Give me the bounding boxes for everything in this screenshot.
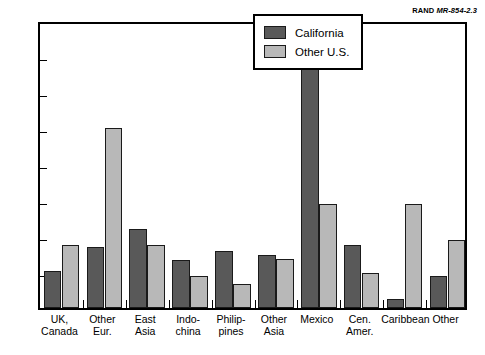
x-axis-tick — [297, 300, 298, 308]
x-axis-tick-label: Cen.Amer. — [338, 314, 381, 337]
bar-california — [172, 260, 190, 308]
x-axis-tick-label-line: Cen. — [338, 314, 381, 326]
bar-california — [129, 229, 147, 308]
x-axis-tick-label-line: Eur. — [81, 326, 124, 338]
bar-group — [40, 24, 83, 308]
bar-group — [126, 24, 169, 308]
legend-item-us: Other U.S. — [264, 42, 349, 61]
bar-other-us — [276, 259, 294, 308]
x-axis-tick-label: UK,Canada — [38, 314, 81, 337]
x-axis-tick-label: Indo-china — [167, 314, 210, 337]
rand-credit-org: RAND — [412, 6, 434, 15]
x-axis-tick-label: Other — [424, 314, 467, 326]
bar-other-us — [147, 245, 165, 308]
chart-page: RAND MR-854-2.3 Percentage of immigrants… — [0, 0, 485, 355]
x-axis-tick — [126, 300, 127, 308]
x-axis-tick-label-line: Amer. — [338, 326, 381, 338]
legend-label-ca: California — [295, 27, 344, 39]
x-axis-tick-label: Philip-pines — [210, 314, 253, 337]
x-axis-tick-label-line: East — [124, 314, 167, 326]
x-axis-tick — [426, 300, 427, 308]
x-axis-tick — [212, 300, 213, 308]
bar-group — [426, 24, 469, 308]
x-axis-tick — [83, 300, 84, 308]
x-axis-tick-label-line: Canada — [38, 326, 81, 338]
bar-group — [83, 24, 126, 308]
x-axis-tick-label-line: pines — [210, 326, 253, 338]
bar-group — [212, 24, 255, 308]
bar-california — [258, 255, 276, 308]
legend-item-ca: California — [264, 23, 349, 42]
legend-label-us: Other U.S. — [295, 46, 349, 58]
x-axis-tick-label-line: Other — [424, 314, 467, 326]
x-axis-tick-label: OtherAsia — [253, 314, 296, 337]
x-axis-tick — [383, 300, 384, 308]
bar-group — [383, 24, 426, 308]
x-axis-tick — [340, 300, 341, 308]
bar-other-us — [105, 128, 123, 308]
bar-california — [87, 247, 105, 308]
bar-other-us — [362, 273, 380, 308]
x-axis-tick-label: OtherEur. — [81, 314, 124, 337]
x-axis-tick-label: Mexico — [295, 314, 338, 326]
x-axis-tick — [255, 300, 256, 308]
x-axis-tick-label-line: Indo- — [167, 314, 210, 326]
x-axis-tick-label-line: UK, — [38, 314, 81, 326]
legend-swatch-us — [264, 45, 286, 58]
bar-other-us — [448, 240, 466, 308]
bar-california — [387, 299, 405, 308]
bar-other-us — [233, 284, 251, 308]
x-axis-tick-label: EastAsia — [124, 314, 167, 337]
bar-other-us — [405, 204, 423, 308]
x-axis-tick-label: Caribbean — [381, 314, 424, 326]
x-axis-tick-label-line: Asia — [253, 326, 296, 338]
x-axis-tick-label-line: Other — [253, 314, 296, 326]
bar-other-us — [190, 276, 208, 308]
x-axis-tick-label-line: Philip- — [210, 314, 253, 326]
x-axis-tick — [169, 300, 170, 308]
rand-credit: RAND MR-854-2.3 — [412, 6, 477, 15]
chart-legend: CaliforniaOther U.S. — [253, 14, 363, 70]
x-axis-tick-label-line: Other — [81, 314, 124, 326]
legend-swatch-ca — [264, 26, 286, 39]
bar-other-us — [62, 245, 80, 308]
rand-credit-docnum: MR-854-2.3 — [436, 6, 477, 15]
bar-california — [344, 245, 362, 308]
x-axis-tick-label-line: Mexico — [295, 314, 338, 326]
bar-california — [215, 251, 233, 308]
bar-other-us — [319, 204, 337, 308]
bar-california — [44, 271, 62, 308]
x-axis-tick-label-line: china — [167, 326, 210, 338]
x-axis-tick-label-line: Caribbean — [381, 314, 424, 326]
bar-group — [169, 24, 212, 308]
bar-california — [430, 276, 448, 308]
x-axis-tick-label-line: Asia — [124, 326, 167, 338]
